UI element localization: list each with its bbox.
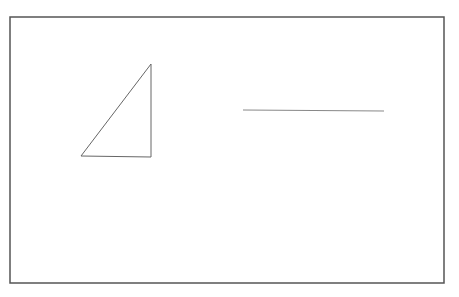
drawing-canvas [0, 0, 459, 297]
canvas-frame [10, 17, 444, 283]
triangle-shape[interactable] [81, 64, 151, 157]
line-shape[interactable] [243, 110, 384, 111]
